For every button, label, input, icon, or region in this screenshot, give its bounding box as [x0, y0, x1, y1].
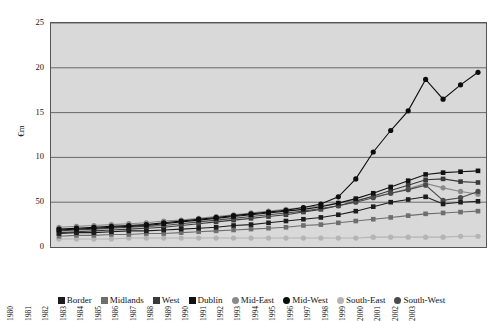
legend-label: South-West — [403, 295, 445, 305]
legend-marker-square-icon — [58, 297, 65, 304]
legend-label: Mid-East — [241, 295, 275, 305]
legend-marker-circle-icon — [337, 297, 344, 304]
chart-canvas — [51, 23, 486, 247]
legend-item-south-east: South-East — [337, 295, 386, 305]
legend-label: West — [162, 295, 180, 305]
y-tick-3: 15 — [0, 108, 44, 117]
legend-marker-circle-icon — [283, 297, 290, 304]
legend-item-west: West — [153, 295, 180, 305]
legend-label: South-East — [346, 295, 386, 305]
chart-legend: BorderMidlandsWestDublinMid-EastMid-West… — [0, 295, 503, 305]
legend-item-midlands: Midlands — [101, 295, 144, 305]
legend-item-mid-west: Mid-West — [283, 295, 328, 305]
legend-label: Midlands — [110, 295, 144, 305]
legend-item-border: Border — [58, 295, 92, 305]
y-tick-1: 50 — [0, 197, 44, 206]
legend-label: Dublin — [198, 295, 223, 305]
legend-marker-square-icon — [189, 297, 196, 304]
legend-label: Mid-West — [292, 295, 328, 305]
legend-marker-square-icon — [153, 297, 160, 304]
y-tick-5: 25 — [0, 18, 44, 27]
y-tick-4: 20 — [0, 63, 44, 72]
legend-label: Border — [67, 295, 92, 305]
y-tick-2: 10 — [0, 152, 44, 161]
legend-marker-circle-icon — [232, 297, 239, 304]
series-mid-west — [56, 70, 480, 232]
legend-item-mid-east: Mid-East — [232, 295, 275, 305]
y-tick-0: 0 — [0, 242, 44, 251]
chart-figure: €m 05010152025 1979198019811982198319841… — [0, 0, 503, 321]
y-axis-label: €m — [16, 111, 26, 151]
legend-marker-square-icon — [101, 297, 108, 304]
legend-item-dublin: Dublin — [189, 295, 223, 305]
plot-area — [50, 22, 487, 248]
legend-item-south-west: South-West — [394, 295, 445, 305]
legend-marker-circle-icon — [394, 297, 401, 304]
